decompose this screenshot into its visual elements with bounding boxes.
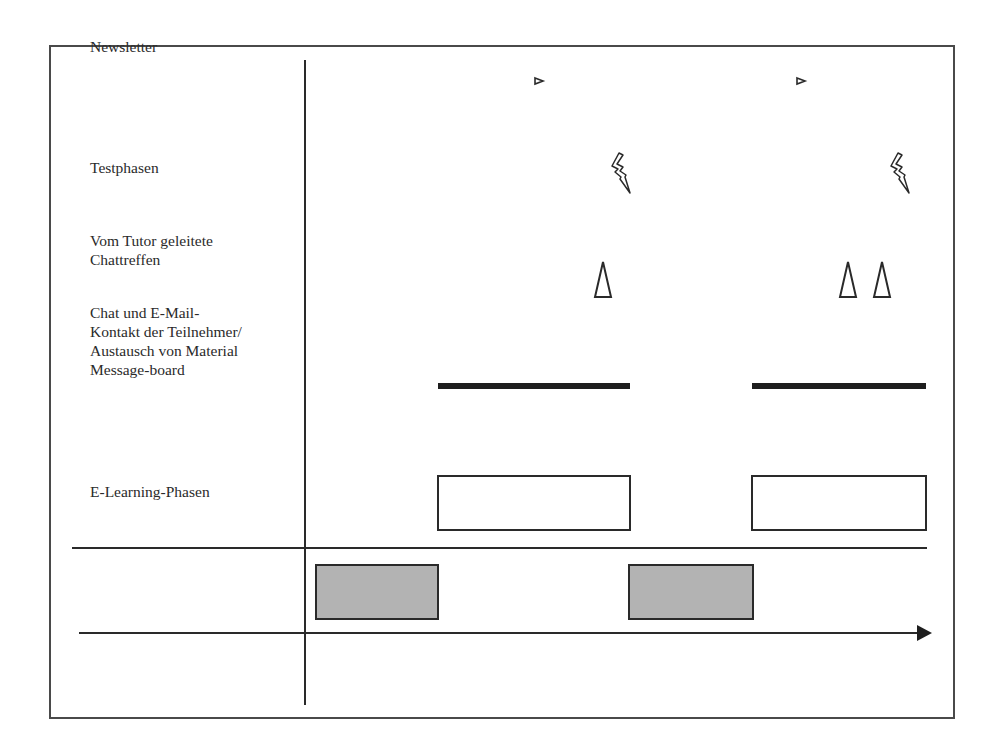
elearning-phase-box: [752, 476, 926, 530]
newsletter-marker-icon: [797, 78, 805, 84]
contact-bar: [438, 383, 630, 389]
presence-phase-box: [316, 565, 438, 619]
arrowhead-icon: [917, 625, 932, 641]
diagram-canvas: [0, 0, 1004, 754]
chat-triangle-icon: [840, 262, 856, 297]
lightning-bolt-icon: [612, 153, 630, 193]
contact-bar: [752, 383, 926, 389]
newsletter-marker-icon: [535, 78, 543, 84]
chat-triangle-icon: [874, 262, 890, 297]
presence-phase-box: [629, 565, 753, 619]
chat-triangle-icon: [595, 262, 611, 297]
elearning-phase-box: [438, 476, 630, 530]
lightning-bolt-icon: [891, 153, 909, 193]
